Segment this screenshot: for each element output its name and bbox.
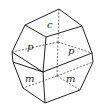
face-label-c: c — [47, 19, 53, 30]
face-label-m-front: m — [25, 73, 34, 84]
crystal-diagram: c p p m m — [0, 0, 103, 108]
face-label-p-front: p — [27, 41, 34, 52]
face-label-p-back: p — [68, 45, 75, 56]
face-label-m-back: m — [66, 73, 75, 84]
